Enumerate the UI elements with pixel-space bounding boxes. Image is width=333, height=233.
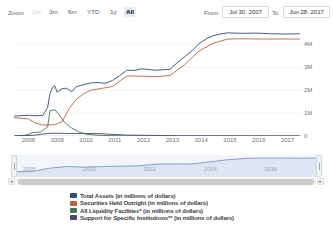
range-button-1m[interactable]: 1m — [30, 7, 43, 17]
range-button-1y[interactable]: 1y — [108, 7, 119, 17]
navigator-tick-2016: 2016 — [264, 166, 276, 172]
x-tick-2017: 2017 — [281, 137, 294, 143]
range-button-ytd[interactable]: YTD — [85, 7, 101, 17]
y-axis-labels: 01M2M3M4M — [304, 26, 333, 140]
navigator[interactable]: 20082010201220142016 — [14, 155, 316, 177]
zoom-label: Zoom — [8, 9, 24, 16]
range-button-6m[interactable]: 6m — [66, 7, 79, 17]
legend-item-all-liquidity-facilities[interactable]: All Liquidity Facilities* (in millions o… — [70, 201, 270, 208]
y-tick-1M: 1M — [304, 110, 312, 116]
series-canvas — [14, 26, 302, 136]
legend-item-support-for-specific-institutions[interactable]: Support for Specific Institutions** (in … — [70, 208, 270, 215]
scroll-right-arrow-icon[interactable]: ▸ — [317, 178, 324, 185]
range-selector-toolbar: Zoom 1m 3m 6m YTD 1y All From Jul 30, 20… — [0, 6, 333, 20]
from-label: From — [204, 9, 218, 16]
x-tick-2013: 2013 — [166, 137, 179, 143]
x-tick-2014: 2014 — [195, 137, 208, 143]
legend-swatch-support-for-specific-institutions — [70, 215, 77, 220]
range-button-all[interactable]: All — [124, 7, 136, 17]
navigator-handle-left[interactable] — [11, 155, 17, 177]
scrollbar-thumb[interactable] — [18, 179, 314, 185]
series-lines — [14, 33, 300, 136]
navigator-tick-2008: 2008 — [23, 166, 35, 172]
to-date-input[interactable]: Jun 28, 2017 — [283, 6, 330, 18]
x-tick-2015: 2015 — [223, 137, 236, 143]
navigator-tick-2014: 2014 — [204, 166, 216, 172]
navigator-handle-right[interactable] — [316, 155, 322, 177]
y-tick-3M: 3M — [304, 64, 312, 70]
to-label: To — [272, 9, 279, 16]
fred-stock-chart: Zoom 1m 3m 6m YTD 1y All From Jul 30, 20… — [0, 0, 333, 233]
x-tick-2016: 2016 — [252, 137, 265, 143]
legend-item-securities-held-outright[interactable]: Securities Held Outright (in millions of… — [70, 193, 270, 200]
x-axis-labels: 2008200920102011201220132014201520162017 — [0, 137, 333, 147]
horizontal-scrollbar[interactable]: ◂ ▸ — [8, 178, 324, 185]
legend-label-support-for-specific-institutions: Support for Specific Institutions** (in … — [80, 215, 234, 221]
legend-item-total-assets[interactable]: Total Assets (in millions of dollars) — [70, 186, 270, 193]
from-date-input[interactable]: Jul 30, 2007 — [222, 6, 269, 18]
navigator-tick-2012: 2012 — [144, 166, 156, 172]
scroll-left-arrow-icon[interactable]: ◂ — [8, 178, 15, 185]
x-tick-2011: 2011 — [108, 137, 121, 143]
gridlines — [14, 44, 302, 136]
navigator-tick-2010: 2010 — [83, 166, 95, 172]
x-tick-2010: 2010 — [79, 137, 92, 143]
x-tick-2012: 2012 — [137, 137, 150, 143]
y-tick-4M: 4M — [304, 41, 312, 47]
main-plot-area[interactable] — [14, 26, 302, 136]
x-tick-2008: 2008 — [22, 137, 35, 143]
range-button-3m[interactable]: 3m — [47, 7, 60, 17]
chart-legend: Total Assets (in millions of dollars) Se… — [70, 186, 270, 216]
y-tick-2M: 2M — [304, 87, 312, 93]
x-tick-2009: 2009 — [51, 137, 64, 143]
